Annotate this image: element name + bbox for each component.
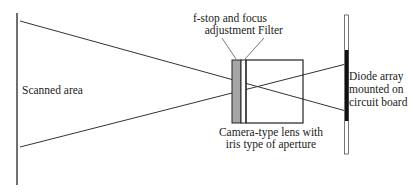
- diode-label-line3: circuit board: [349, 96, 407, 109]
- filter: [241, 60, 246, 123]
- lens-label-line2: iris type of aperture: [212, 138, 330, 150]
- fstop-label-line1: f-stop and focus: [181, 12, 279, 24]
- lens-label: Camera-type lens with iris type of apert…: [212, 126, 330, 150]
- filter-leader: [245, 38, 264, 59]
- diode-array: [345, 50, 349, 121]
- scanned-area-label: Scanned area: [22, 84, 83, 96]
- lens-label-line1: Camera-type lens with: [212, 126, 330, 138]
- filter-label: Filter: [258, 24, 283, 36]
- diode-label-line1: Diode array: [349, 70, 407, 83]
- diode-label-line2: mounted on: [349, 83, 407, 96]
- fstop-focus-ring: [232, 60, 241, 123]
- fstop-leader: [222, 38, 236, 59]
- diode-label: Diode array mounted on circuit board: [349, 70, 407, 109]
